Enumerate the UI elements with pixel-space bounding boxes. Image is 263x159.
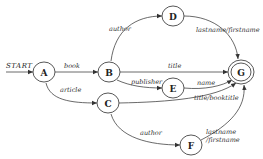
node-a-label: A — [40, 68, 49, 78]
node-c-label: C — [104, 99, 111, 109]
edge-label-article: article — [60, 86, 81, 94]
node-f: F — [180, 135, 202, 155]
node-a: A — [33, 62, 55, 82]
start-label: START — [6, 62, 33, 70]
automaton-diagram: START book article author title publishe… — [0, 0, 263, 159]
edge-b-d — [111, 16, 162, 61]
node-e-label: E — [170, 84, 177, 94]
edge-label-title: title — [168, 62, 181, 70]
edge-label-book: book — [64, 62, 80, 70]
edge-label-author-cf: author — [140, 129, 163, 137]
edge-label-lastname-fg: lastname — [206, 128, 236, 136]
edge-d-g — [184, 16, 238, 59]
edge-label-lastname-firstname-dg: lastname/firstname — [196, 26, 260, 34]
diagram-svg: START book article author title publishe… — [0, 0, 263, 159]
edge-label-title-booktitle: title/booktitle — [194, 94, 239, 102]
node-b: B — [98, 62, 120, 82]
edge-label-firstname-fg: /firstname — [205, 136, 240, 144]
node-d: D — [162, 6, 184, 26]
node-b-label: B — [105, 68, 113, 78]
edge-label-author-bd: author — [109, 25, 132, 33]
node-g-accepting: G — [228, 60, 254, 84]
edge-label-name: name — [197, 79, 215, 87]
node-e: E — [162, 78, 184, 98]
node-d-label: D — [169, 12, 177, 22]
node-g-label: G — [237, 68, 245, 78]
node-c: C — [97, 93, 119, 113]
node-f-label: F — [188, 141, 195, 151]
edge-label-publisher: publisher — [131, 78, 163, 86]
